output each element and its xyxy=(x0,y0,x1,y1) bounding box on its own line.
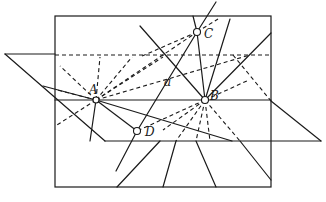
label-D: D xyxy=(144,125,155,139)
point-B xyxy=(202,97,209,104)
label-B: B xyxy=(209,89,219,103)
horizontal-plane xyxy=(5,54,321,141)
label-a: a xyxy=(164,75,171,89)
label-A: A xyxy=(88,83,98,97)
vertical-plane-rectangle xyxy=(55,16,271,187)
point-A xyxy=(93,97,99,103)
rays-from-B xyxy=(117,19,271,187)
point-D xyxy=(134,128,141,135)
geometry-diagram: A B C D a xyxy=(0,0,326,202)
diagram-svg: A B C D a xyxy=(0,0,326,202)
label-C: C xyxy=(204,27,213,41)
point-C xyxy=(194,29,201,36)
